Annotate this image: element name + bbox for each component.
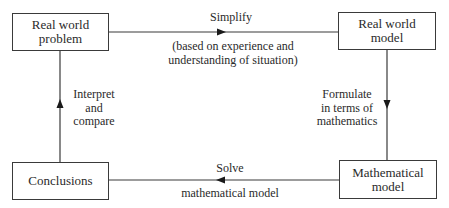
node-real-world-problem: Real world problem bbox=[12, 13, 109, 51]
edge-label-solve: Solve bbox=[200, 162, 260, 176]
edge-label-formulate: Formulate in terms of mathematics bbox=[315, 88, 379, 129]
arrowhead-right-icon bbox=[217, 29, 226, 36]
node-label: problem bbox=[32, 32, 89, 46]
edge-note-solve: mathematical model bbox=[170, 187, 290, 201]
edge-label-line: Formulate bbox=[315, 88, 379, 102]
node-label: Mathematical bbox=[352, 166, 423, 180]
edge-label-interpret: Interpret and compare bbox=[66, 88, 122, 129]
edge-label-line: mathematics bbox=[315, 115, 379, 129]
edge-note-line: understanding of situation) bbox=[148, 54, 318, 68]
node-mathematical-model: Mathematical model bbox=[339, 160, 437, 199]
edge-note-line: (based on experience and bbox=[148, 40, 318, 54]
edge-label-line: Interpret bbox=[66, 88, 122, 102]
arrowhead-down-icon bbox=[384, 100, 391, 109]
node-label: Conclusions bbox=[28, 174, 92, 188]
edge-note-simplify: (based on experience and understanding o… bbox=[148, 40, 318, 67]
node-label: Real world bbox=[32, 18, 89, 32]
node-real-world-model: Real world model bbox=[338, 12, 436, 50]
node-conclusions: Conclusions bbox=[12, 162, 109, 200]
edge-label-line: in terms of bbox=[315, 102, 379, 116]
node-label: model bbox=[358, 31, 415, 45]
edge-label-simplify: Simplify bbox=[201, 11, 261, 25]
edge-label-line: compare bbox=[66, 115, 122, 129]
node-label: model bbox=[352, 180, 423, 194]
edge-label-line: and bbox=[66, 102, 122, 116]
arrowhead-up-icon bbox=[57, 99, 64, 108]
node-label: Real world bbox=[358, 17, 415, 31]
arrowhead-left-icon bbox=[216, 177, 225, 184]
